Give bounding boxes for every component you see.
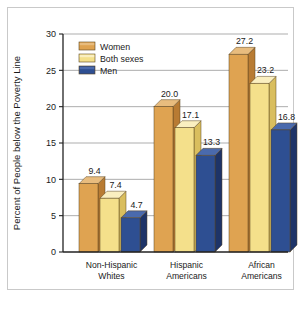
y-tick-label: 25 xyxy=(46,66,56,76)
x-category-label: Non-Hispanic xyxy=(86,260,138,270)
bar-front-face xyxy=(250,83,269,252)
bar-value-label: 13.3 xyxy=(203,137,220,147)
bar-value-label: 17.1 xyxy=(182,110,199,120)
bars-group xyxy=(79,47,297,252)
y-tick-label: 20 xyxy=(46,102,56,112)
y-tick-label: 30 xyxy=(46,29,56,39)
legend-label: Women xyxy=(100,42,130,52)
legend-entry-women[interactable]: Women xyxy=(79,42,130,52)
legend-entry-men[interactable]: Men xyxy=(79,66,117,76)
x-category-label: African xyxy=(248,260,275,270)
legend-swatch-highlight xyxy=(80,55,94,57)
bar-value-label: 7.4 xyxy=(109,180,121,190)
x-category-label: Americans xyxy=(166,271,207,281)
x-category-label: Whites xyxy=(98,271,124,281)
bar-2-2 xyxy=(271,123,297,252)
bar-front-face xyxy=(154,107,173,252)
bar-front-face xyxy=(271,130,290,252)
legend-label: Men xyxy=(100,66,117,76)
x-category-labels-group: Non-HispanicWhitesHispanicAmericansAfric… xyxy=(86,260,282,281)
x-category-label: Americans xyxy=(241,271,282,281)
bar-front-face xyxy=(229,54,248,252)
y-tick-label: 15 xyxy=(46,138,56,148)
legend-swatch-highlight xyxy=(80,67,94,69)
bar-side-face xyxy=(215,148,222,252)
bar-value-label: 9.4 xyxy=(88,166,100,176)
bar-chart: 051015202530 Non-HispanicWhitesHispanicA… xyxy=(0,0,308,309)
bar-side-face xyxy=(290,123,297,252)
bar-value-label: 4.7 xyxy=(130,200,142,210)
bar-front-face xyxy=(196,155,215,252)
bar-0-2 xyxy=(121,211,147,252)
bar-front-face xyxy=(121,218,140,252)
bar-value-label: 16.8 xyxy=(278,112,295,122)
bar-front-face xyxy=(175,128,194,252)
bar-1-2 xyxy=(196,148,222,252)
bar-value-label: 23.2 xyxy=(257,65,274,75)
x-category-label: Hispanic xyxy=(170,260,204,270)
bar-value-label: 20.0 xyxy=(161,89,178,99)
y-tick-labels-group: 051015202530 xyxy=(46,29,56,257)
legend-entry-both-sexes[interactable]: Both sexes xyxy=(79,54,144,64)
legend-swatch-highlight xyxy=(80,43,94,45)
y-tick-label: 5 xyxy=(51,211,56,221)
legend-label: Both sexes xyxy=(100,54,144,64)
figure-root: 051015202530 Non-HispanicWhitesHispanicA… xyxy=(0,0,308,309)
bar-value-label: 27.2 xyxy=(236,36,253,46)
y-tick-label: 10 xyxy=(46,175,56,185)
y-axis-title: Percent of People below the Poverty Line xyxy=(11,56,22,230)
y-axis-title-group: Percent of People below the Poverty Line xyxy=(11,56,22,230)
y-tick-label: 0 xyxy=(51,247,56,257)
bar-front-face xyxy=(100,198,119,252)
bar-front-face xyxy=(79,184,98,252)
